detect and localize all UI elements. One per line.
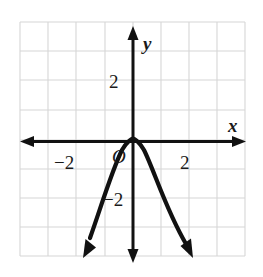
y-axis-label: y <box>141 33 152 54</box>
y-tick-label-negative-2: −2 <box>103 189 123 210</box>
x-tick-label-negative-2: −2 <box>54 152 74 173</box>
graph-figure: y x 2 −2 −2 2 O <box>0 0 263 277</box>
x-axis-label: x <box>227 115 238 136</box>
x-tick-label-positive-2: 2 <box>180 152 190 173</box>
y-tick-label-positive-2: 2 <box>109 71 119 92</box>
origin-label: O <box>112 146 126 167</box>
